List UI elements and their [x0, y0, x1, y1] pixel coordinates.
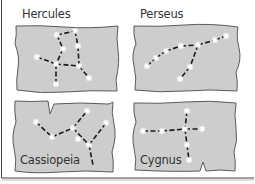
perseus-star	[164, 49, 168, 53]
hercules-star	[54, 82, 58, 86]
perseus-star	[224, 34, 228, 38]
perseus-star	[188, 65, 192, 69]
hercules-star	[55, 33, 59, 37]
cygnus-star	[183, 127, 187, 131]
cassiopeia-star	[85, 109, 89, 113]
hercules-star	[73, 29, 77, 33]
cassiopeia-star	[87, 143, 91, 147]
panel-hercules	[15, 26, 119, 93]
cygnus-star	[185, 143, 189, 147]
perseus-star	[154, 56, 158, 60]
perseus-star	[178, 77, 182, 81]
cassiopeia-star	[104, 121, 108, 125]
cassiopeia-star	[76, 137, 80, 141]
label-perseus: Perseus	[140, 9, 183, 21]
cassiopeia-star	[34, 120, 38, 124]
perseus-star	[196, 43, 200, 47]
label-cygnus: Cygnus	[140, 155, 182, 167]
hercules-star	[35, 55, 39, 59]
perseus-star	[213, 38, 217, 42]
cassiopeia-star	[50, 135, 54, 139]
hercules-star	[76, 44, 80, 48]
hercules-star	[87, 76, 91, 80]
label-cassiopeia: Cassiopeia	[20, 155, 80, 167]
perseus-star	[179, 44, 183, 48]
hercules-star	[54, 62, 58, 66]
label-hercules: Hercules	[22, 9, 70, 21]
cygnus-star	[187, 158, 191, 162]
perseus-star	[145, 64, 149, 68]
cygnus-star	[141, 129, 145, 133]
cygnus-star	[160, 129, 164, 133]
hercules-star	[61, 47, 65, 51]
cygnus-star	[185, 109, 189, 113]
hercules-star	[77, 64, 81, 68]
cassiopeia-star	[71, 126, 75, 130]
cygnus-star	[200, 127, 204, 131]
